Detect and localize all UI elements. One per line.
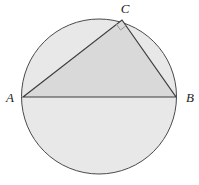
vertex-label-a: A	[5, 90, 14, 105]
geometry-diagram: A B C	[0, 0, 199, 185]
geometry-figure-canvas: A B C	[0, 0, 199, 185]
vertex-label-b: B	[186, 90, 194, 105]
vertex-label-c: C	[121, 1, 130, 16]
